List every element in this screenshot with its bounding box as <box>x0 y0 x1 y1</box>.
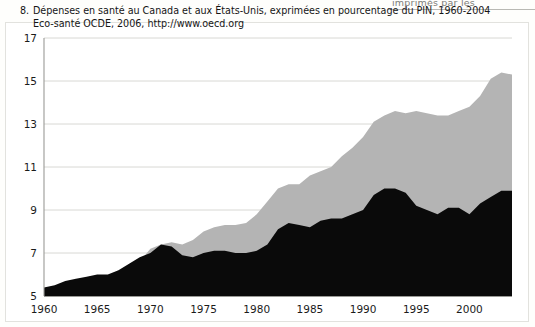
x-tick-labels-group: 196019651970197519801985199019952000 <box>31 303 483 315</box>
y-tick-label-13: 13 <box>24 118 37 130</box>
caption-number: 8. <box>20 5 33 17</box>
x-tick-label-1980: 1980 <box>243 303 270 315</box>
x-tick-label-1970: 1970 <box>137 303 164 315</box>
y-tick-labels-group: 57911131517 <box>24 32 37 302</box>
y-tick-label-7: 7 <box>30 247 37 259</box>
x-tick-label-2000: 2000 <box>456 303 483 315</box>
x-tick-label-1995: 1995 <box>403 303 430 315</box>
chart-svg: 57911131517 1960196519701975198019851990… <box>5 22 529 322</box>
y-tick-label-5: 5 <box>30 290 37 302</box>
caption-title: Dépenses en santé au Canada et aux États… <box>33 5 490 17</box>
y-tick-label-15: 15 <box>24 75 37 87</box>
y-tick-label-9: 9 <box>30 204 37 216</box>
x-tick-label-1975: 1975 <box>190 303 217 315</box>
y-tick-label-17: 17 <box>24 32 37 44</box>
data-areas-group <box>44 72 512 296</box>
y-tick-label-11: 11 <box>24 161 37 173</box>
scanned-page: imprimés par les 8. Dépenses en santé au… <box>0 0 535 327</box>
health-expenditure-area-chart: 57911131517 1960196519701975198019851990… <box>5 22 529 322</box>
x-tick-label-1985: 1985 <box>297 303 324 315</box>
x-tick-label-1960: 1960 <box>31 303 58 315</box>
x-tick-label-1990: 1990 <box>350 303 377 315</box>
x-tick-label-1965: 1965 <box>84 303 111 315</box>
